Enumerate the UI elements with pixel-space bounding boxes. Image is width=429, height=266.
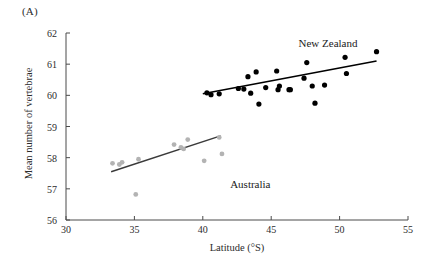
data-point	[342, 55, 347, 60]
data-point	[263, 85, 268, 90]
y-tick-label: 59	[37, 121, 57, 132]
data-point	[208, 92, 213, 97]
data-point	[220, 152, 225, 157]
data-point	[344, 71, 349, 76]
y-tick-label: 60	[37, 90, 57, 101]
data-point	[217, 135, 222, 140]
y-tick-label: 58	[37, 152, 57, 163]
x-tick-label: 35	[129, 224, 139, 235]
data-point	[277, 83, 282, 88]
data-point	[172, 142, 177, 147]
data-point	[254, 69, 259, 74]
y-axis-label: Mean number of vertebrae	[23, 49, 34, 199]
data-point	[312, 101, 317, 106]
data-point	[181, 147, 186, 152]
x-tick-label: 55	[403, 224, 413, 235]
x-tick-label: 40	[198, 224, 208, 235]
y-tick-label: 56	[37, 215, 57, 226]
data-point	[136, 157, 141, 162]
data-point	[202, 158, 207, 163]
data-point	[245, 74, 250, 79]
data-point	[241, 87, 246, 92]
data-point	[236, 86, 241, 91]
data-point	[248, 91, 253, 96]
x-tick-label: 45	[266, 224, 276, 235]
figure-panel-a: (A) Mean number of vertebrae Latitude (°…	[0, 0, 429, 266]
y-tick-label: 62	[37, 28, 57, 39]
series-label-new-zealand: New Zealand	[299, 37, 358, 49]
series-label-australia: Australia	[230, 178, 270, 190]
panel-label: (A)	[22, 5, 38, 17]
data-point	[322, 82, 327, 87]
data-point	[133, 192, 138, 197]
data-point	[120, 160, 125, 165]
x-tick-label: 30	[61, 224, 71, 235]
tick-marks	[66, 33, 408, 220]
axis-lines	[66, 33, 408, 220]
data-points	[110, 49, 379, 197]
data-point	[256, 101, 261, 106]
data-point	[304, 60, 309, 65]
data-point	[288, 87, 293, 92]
data-point	[374, 49, 379, 54]
x-axis-label: Latitude (°S)	[66, 242, 408, 253]
data-point	[217, 91, 222, 96]
trendlines	[111, 61, 376, 172]
data-point	[110, 161, 115, 166]
y-tick-label: 57	[37, 183, 57, 194]
data-point	[274, 68, 279, 73]
x-tick-label: 50	[335, 224, 345, 235]
data-point	[185, 137, 190, 142]
y-tick-label: 61	[37, 59, 57, 70]
data-point	[310, 83, 315, 88]
data-point	[301, 76, 306, 81]
trendline-australia	[111, 136, 220, 172]
